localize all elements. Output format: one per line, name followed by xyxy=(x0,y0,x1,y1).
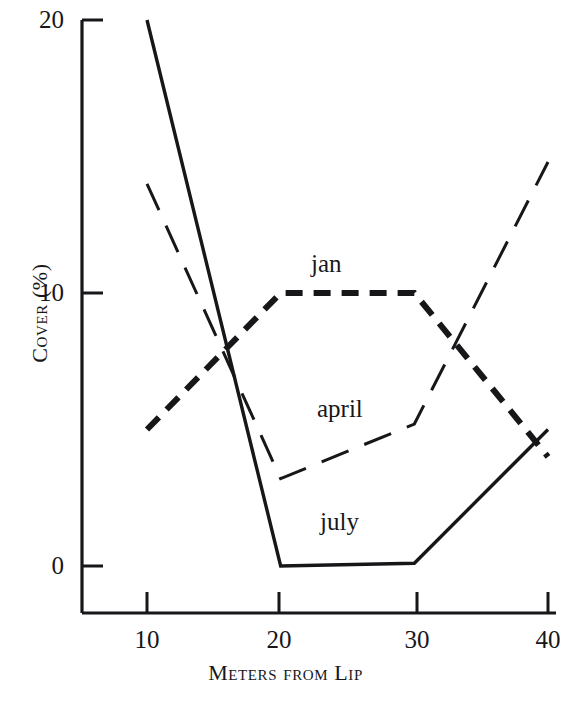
data-series-group xyxy=(147,20,548,566)
x-tick-label-10: 10 xyxy=(117,627,177,652)
series-label-april: april xyxy=(317,395,363,423)
x-tick-label-20: 20 xyxy=(249,627,309,652)
axis-lines xyxy=(82,20,556,613)
y-axis-title: Cover (%) xyxy=(27,183,53,443)
y-tick-label-0: 0 xyxy=(12,553,64,578)
chart-plot-area xyxy=(0,0,571,703)
chart-container: 20 10 0 10 20 30 40 Meters from Lip Cove… xyxy=(0,0,571,703)
x-tick-label-40: 40 xyxy=(518,627,571,652)
x-axis-ticks xyxy=(147,592,548,613)
series-line-april xyxy=(147,162,548,479)
y-axis-ticks xyxy=(82,20,103,566)
series-label-jan: jan xyxy=(311,250,342,278)
x-axis-title: Meters from Lip xyxy=(0,660,571,686)
series-label-july: july xyxy=(320,508,359,536)
x-tick-label-30: 30 xyxy=(387,627,447,652)
y-tick-label-20: 20 xyxy=(12,7,64,32)
